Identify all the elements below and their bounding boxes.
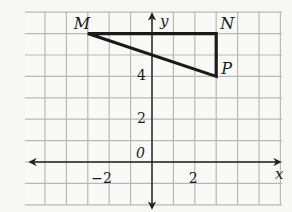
y-tick-label: 4 (137, 67, 146, 83)
vertex-label-n: N (219, 14, 235, 33)
x-tick-label: 2 (189, 170, 198, 186)
y-tick-label: 2 (137, 110, 146, 126)
x-axis-label: x (275, 165, 284, 183)
y-axis-label: y (159, 12, 169, 30)
origin-label: 0 (136, 145, 145, 161)
vertex-label-p: P (220, 59, 232, 78)
grid-background (25, 12, 282, 205)
coordinate-plane-figure: MNPyx0−2224 (0, 0, 292, 212)
x-tick-label: −2 (91, 170, 112, 186)
vertex-label-m: M (73, 14, 91, 33)
coordinate-plane: MNPyx0−2224 (0, 0, 292, 212)
